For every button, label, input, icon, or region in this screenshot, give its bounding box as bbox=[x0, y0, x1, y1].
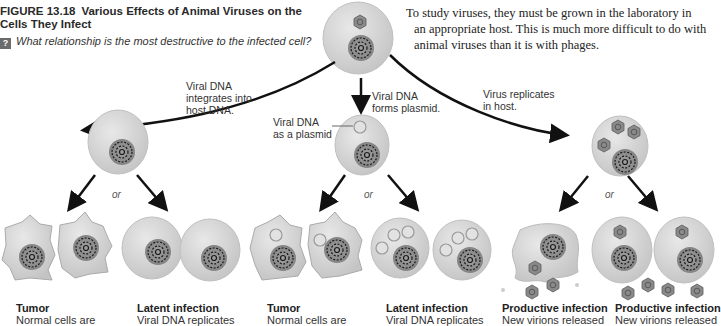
figure-question: ?What relationship is the most destructi… bbox=[0, 35, 311, 49]
label-line: Viral DNA bbox=[186, 80, 252, 92]
outcome-desc: Viral DNA replicates bbox=[386, 314, 484, 326]
outcome-title: Productive infection bbox=[615, 302, 721, 314]
lysed-cell bbox=[501, 224, 579, 299]
label-forms-plasmid: Viral DNA forms plasmid. bbox=[372, 90, 440, 114]
outcome-title: Latent infection bbox=[386, 302, 484, 314]
cell-replicating bbox=[592, 116, 648, 176]
outcome-desc: New virions released bbox=[502, 314, 608, 326]
body-line: To study viruses, they must be grown in … bbox=[406, 5, 718, 21]
outcome-desc: Normal cells are bbox=[267, 314, 346, 326]
body-line: an appropriate host. This is much more d… bbox=[406, 21, 718, 37]
question-text: What relationship is the most destructiv… bbox=[16, 35, 311, 47]
question-icon: ? bbox=[0, 38, 11, 49]
outcome-tumor-1: Tumor Normal cells are bbox=[16, 302, 95, 326]
outcome-title: Tumor bbox=[267, 302, 346, 314]
latent-cell-2 bbox=[180, 219, 240, 281]
label-line: in host. bbox=[483, 100, 555, 112]
outcome-latent-2: Latent infection Viral DNA replicates bbox=[386, 302, 484, 326]
label-line: integrates into bbox=[186, 92, 252, 104]
outcome-title: Productive infection bbox=[502, 302, 608, 314]
tumor-cell-1 bbox=[2, 215, 55, 280]
label-line: Virus replicates bbox=[483, 88, 555, 100]
cell-integrated bbox=[88, 110, 148, 174]
latent-cell-3 bbox=[371, 218, 429, 278]
outcome-tumor-2: Tumor Normal cells are bbox=[267, 302, 346, 326]
label-integrates: Viral DNA integrates into host DNA. bbox=[186, 80, 252, 116]
outcome-title: Latent infection bbox=[137, 302, 235, 314]
figure-number: FIGURE 13.18 bbox=[0, 5, 75, 17]
label-line: forms plasmid. bbox=[372, 102, 440, 114]
latent-cell-4 bbox=[433, 220, 491, 280]
outcome-desc: Normal cells are bbox=[16, 314, 95, 326]
cell-plasmid bbox=[332, 115, 389, 175]
productive-cell-1 bbox=[592, 217, 652, 283]
tumor-cell-4 bbox=[308, 212, 362, 278]
tumor-cell-3 bbox=[250, 215, 306, 280]
or-label: or bbox=[364, 189, 373, 200]
outcome-desc: New virions released bbox=[615, 314, 721, 326]
outcome-productive-2: Productive infection New virions release… bbox=[615, 302, 721, 326]
latent-cell-1 bbox=[122, 217, 182, 279]
label-replicates: Virus replicates in host. bbox=[483, 88, 555, 112]
label-line: host DNA. bbox=[186, 104, 252, 116]
or-label: or bbox=[112, 189, 121, 200]
label-line: as a plasmid bbox=[273, 128, 332, 140]
body-paragraph: To study viruses, they must be grown in … bbox=[406, 5, 718, 53]
body-line: animal viruses than it is with phages. bbox=[406, 37, 718, 53]
outcome-title: Tumor bbox=[16, 302, 95, 314]
outcome-latent-1: Latent infection Viral DNA replicates bbox=[137, 302, 235, 326]
or-label: or bbox=[605, 189, 614, 200]
tumor-cell-2 bbox=[58, 212, 112, 278]
label-line: Viral DNA bbox=[372, 90, 440, 102]
callout-plasmid: Viral DNA as a plasmid bbox=[273, 116, 332, 140]
figure-title: FIGURE 13.18Various Effects of Animal Vi… bbox=[0, 5, 320, 31]
productive-cell-2 bbox=[654, 217, 714, 283]
label-line: Viral DNA bbox=[273, 116, 332, 128]
outcome-desc: Viral DNA replicates bbox=[137, 314, 235, 326]
outcome-productive-1: Productive infection New virions release… bbox=[502, 302, 608, 326]
